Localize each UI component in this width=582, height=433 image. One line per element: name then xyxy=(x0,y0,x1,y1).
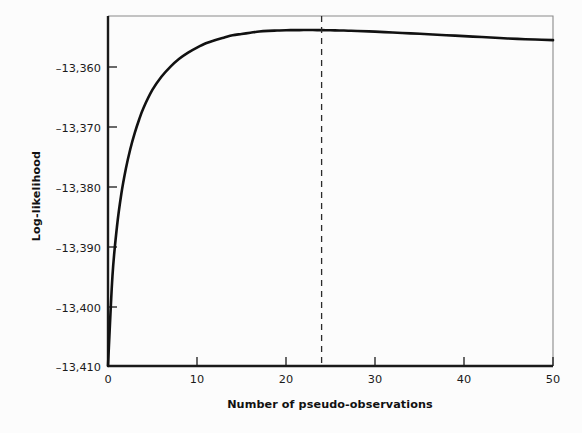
x-tick-label: 0 xyxy=(104,373,111,386)
x-tick-label: 20 xyxy=(279,373,293,386)
log-likelihood-line-chart: –13,360 –13,370 –13,380 –13,390 –13,400 … xyxy=(0,0,582,433)
y-tick-label: –13,400 xyxy=(56,302,101,315)
y-axis-tick-labels: –13,360 –13,370 –13,380 –13,390 –13,400 … xyxy=(56,62,101,374)
x-tick-label: 50 xyxy=(546,373,560,386)
plot-frame-top-right xyxy=(108,16,553,366)
x-tick-label: 10 xyxy=(190,373,204,386)
y-tick-label: –13,410 xyxy=(56,361,101,374)
y-tick-label: –13,390 xyxy=(56,242,101,255)
y-tick-label: –13,370 xyxy=(56,122,101,135)
x-tick-label: 30 xyxy=(368,373,382,386)
chart-figure: –13,360 –13,370 –13,380 –13,390 –13,400 … xyxy=(0,0,582,433)
y-axis-title: Log-likelihood xyxy=(30,151,43,241)
y-tick-label: –13,380 xyxy=(56,182,101,195)
x-tick-label: 40 xyxy=(457,373,471,386)
y-tick-label: –13,360 xyxy=(56,62,101,75)
log-likelihood-curve xyxy=(108,30,553,366)
x-axis-title: Number of pseudo-observations xyxy=(227,398,433,411)
x-axis-tick-labels: 0 10 20 30 40 50 xyxy=(104,373,560,386)
x-axis-ticks xyxy=(108,357,553,366)
